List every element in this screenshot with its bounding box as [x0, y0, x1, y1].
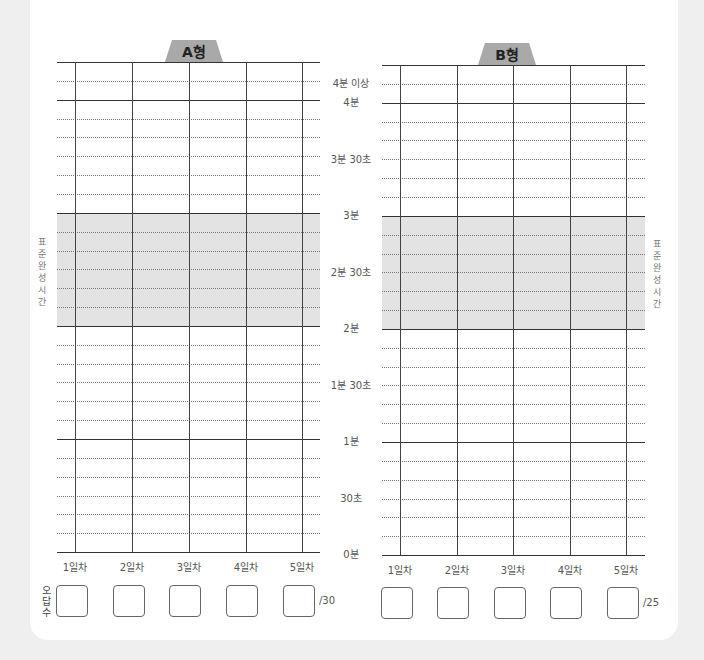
y-axis-label: 4분 [316, 94, 386, 109]
day-column-line [246, 62, 247, 552]
y-axis-label: 4분 이상 [316, 75, 386, 90]
y-axis-label: 0분 [316, 546, 386, 561]
wrong-count-box-day-3[interactable] [169, 585, 201, 617]
wrong-count-box-day-5[interactable] [283, 585, 315, 617]
y-axis-label: 30초 [316, 490, 386, 505]
x-axis-label: 2일차 [104, 559, 160, 574]
y-axis-label: 1분 [316, 433, 386, 448]
standard-time-label-left: 표준완성시간 [36, 236, 48, 308]
x-axis-label: 5일차 [274, 559, 330, 574]
wrong-count-box-day-2[interactable] [437, 587, 469, 619]
wrong-count-box-day-3[interactable] [494, 587, 526, 619]
day-column-line [457, 65, 458, 555]
x-axis-label: 3일차 [485, 562, 541, 577]
wrong-answers-label: 오답수 [40, 585, 52, 618]
wrong-total: /30 [319, 595, 335, 606]
x-axis-label: 4일차 [542, 562, 598, 577]
wrong-total: /25 [643, 597, 659, 608]
x-axis-label: 1일차 [372, 562, 428, 577]
grid-line-major [382, 555, 645, 556]
standard-time-label-right: 표준완성시간 [651, 238, 663, 310]
day-column-line [189, 62, 190, 552]
x-axis-label: 1일차 [47, 559, 103, 574]
day-column-line [400, 65, 401, 555]
x-axis-label: 2일차 [429, 562, 485, 577]
wrong-count-box-day-1[interactable] [56, 585, 88, 617]
grid-line-major [57, 552, 320, 553]
chart-tab-a: A형 [165, 40, 223, 62]
y-axis-label: 3분 [316, 207, 386, 222]
day-column-line [626, 65, 627, 555]
wrong-count-box-day-4[interactable] [550, 587, 582, 619]
chart-tab-b: B형 [478, 43, 536, 65]
y-axis-label: 2분 [316, 320, 386, 335]
day-column-line [570, 65, 571, 555]
wrong-count-box-day-4[interactable] [226, 585, 258, 617]
day-column-line [302, 62, 303, 552]
wrong-count-box-day-1[interactable] [381, 587, 413, 619]
x-axis-label: 4일차 [218, 559, 274, 574]
wrong-count-box-day-2[interactable] [113, 585, 145, 617]
x-axis-label: 5일차 [598, 562, 654, 577]
y-axis-label: 1분 30초 [316, 377, 386, 392]
day-column-line [75, 62, 76, 552]
x-axis-label: 3일차 [161, 559, 217, 574]
day-column-line [132, 62, 133, 552]
y-axis-label: 3분 30초 [316, 151, 386, 166]
wrong-count-box-day-5[interactable] [607, 587, 639, 619]
day-column-line [513, 65, 514, 555]
y-axis-label: 2분 30초 [316, 264, 386, 279]
